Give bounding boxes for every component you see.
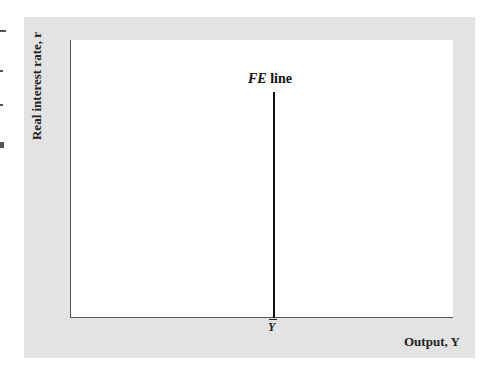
y-bar-tick-label: Y [268, 320, 275, 335]
y-bar-text: Y [268, 320, 275, 334]
edge-fragment [0, 30, 6, 32]
y-axis-label: Real interest rate, r [29, 0, 45, 186]
edge-fragment [0, 104, 3, 106]
overbar [269, 319, 277, 320]
fe-line [273, 92, 275, 318]
edge-fragment [0, 70, 3, 72]
fe-label-italic: FE [248, 71, 267, 86]
x-axis-label: Output, Y [404, 334, 460, 350]
fe-label-rest: line [267, 71, 292, 86]
edge-fragment [0, 142, 4, 148]
fe-line-label: FE line [248, 71, 292, 87]
